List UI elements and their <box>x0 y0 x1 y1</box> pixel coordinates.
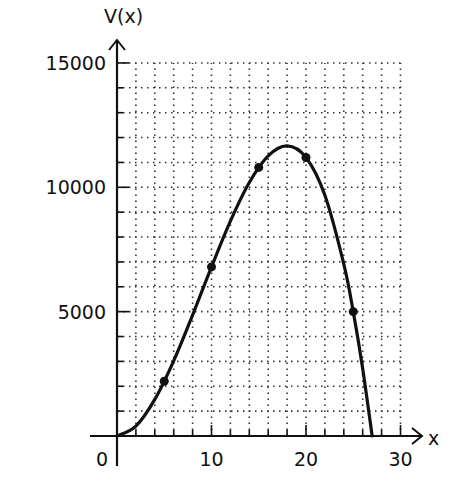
dotted-grid <box>117 63 401 436</box>
y-tick-label: 5000 <box>58 301 106 323</box>
y-tick-label: 10000 <box>46 176 106 198</box>
origin-label: 0 <box>96 448 108 470</box>
data-point <box>302 153 311 162</box>
data-point <box>160 377 169 386</box>
y-axis-label: V(x) <box>104 5 143 27</box>
data-point <box>349 307 358 316</box>
tick-marks <box>117 63 401 436</box>
x-axis-label: x <box>428 427 439 449</box>
x-tick-label: 10 <box>199 448 223 470</box>
y-tick-label: 15000 <box>46 52 106 74</box>
tick-labels: 010203050001000015000 <box>46 52 413 470</box>
x-tick-label: 20 <box>294 448 318 470</box>
x-tick-label: 30 <box>388 448 412 470</box>
data-point <box>207 262 216 271</box>
axes <box>90 40 422 466</box>
data-point <box>254 163 263 172</box>
volume-chart: 010203050001000015000 V(x) x <box>0 0 472 481</box>
